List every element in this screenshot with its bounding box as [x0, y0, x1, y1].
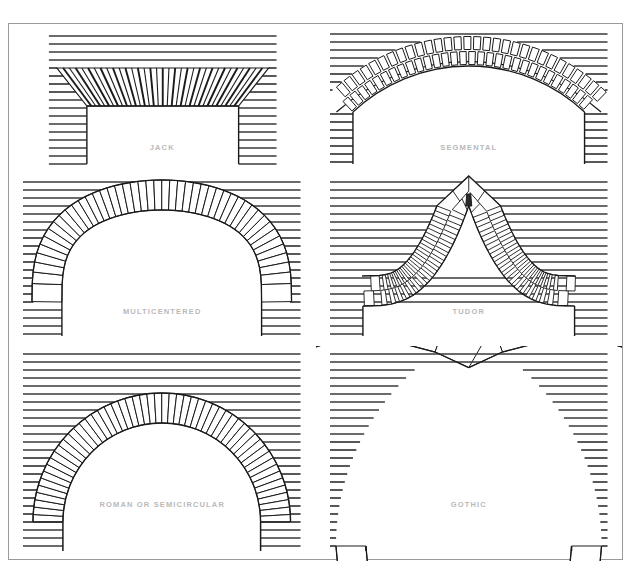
panel-roman: ROMAN OR SEMICIRCULAR: [9, 346, 316, 561]
panel-gothic: GOTHIC: [316, 346, 623, 561]
panel-tudor: TUDOR: [316, 174, 623, 346]
plate-frame: JACK SEGMENTAL MULTICENTERED: [8, 23, 623, 560]
panel-label-gothic: GOTHIC: [316, 500, 623, 509]
panel-label-tudor: TUDOR: [316, 307, 623, 316]
tudor-arch-drawing: [316, 174, 623, 346]
panel-label-segmental: SEGMENTAL: [316, 143, 623, 152]
panel-jack: JACK: [9, 24, 316, 174]
roman-arch-drawing: [9, 346, 316, 561]
arch-types-plate: JACK SEGMENTAL MULTICENTERED: [0, 0, 633, 578]
panel-label-roman: ROMAN OR SEMICIRCULAR: [9, 500, 316, 509]
panel-grid: JACK SEGMENTAL MULTICENTERED: [9, 24, 622, 559]
panel-segmental: SEGMENTAL: [316, 24, 623, 174]
panel-label-multicentered: MULTICENTERED: [9, 307, 316, 316]
panel-multicentered: MULTICENTERED: [9, 174, 316, 346]
panel-label-jack: JACK: [9, 143, 316, 152]
gothic-arch-drawing: [316, 346, 623, 561]
multicentered-arch-drawing: [9, 174, 316, 346]
